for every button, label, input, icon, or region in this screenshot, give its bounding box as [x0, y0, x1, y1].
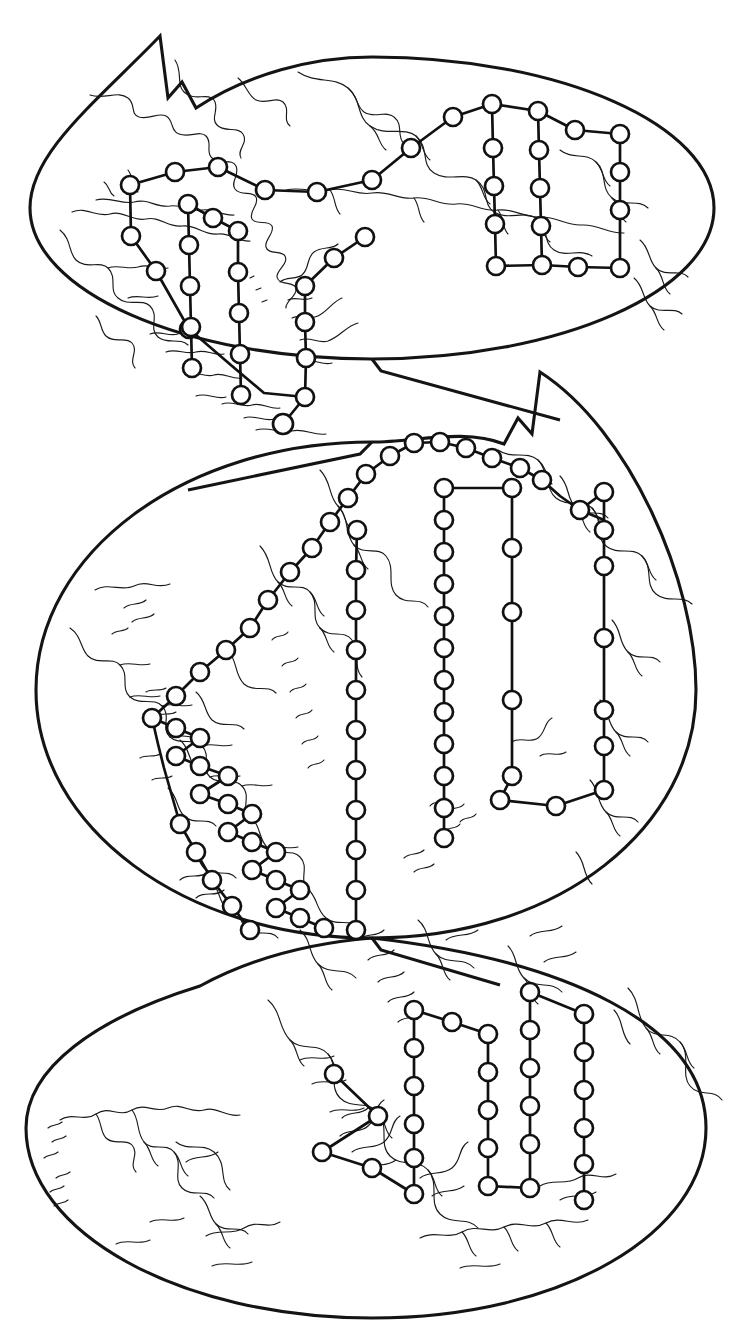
world-map-network-svg	[0, 0, 729, 1336]
figure-root	[0, 0, 729, 1336]
